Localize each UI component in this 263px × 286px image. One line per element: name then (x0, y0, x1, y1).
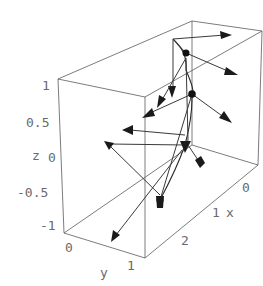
x-tick-2: 2 (181, 233, 189, 248)
x-axis-label: x (226, 205, 234, 220)
y-tick-0: 0 (65, 240, 73, 255)
z-tick-neg1: -1 (40, 218, 56, 233)
z-tick-0.5: 0.5 (26, 115, 49, 130)
3d-plot: 1 0.5 0 -0.5 -1 z 0 1 2 x 0 1 y (0, 0, 263, 286)
x-axis-ticks: 0 1 2 (181, 180, 250, 248)
y-tick-1: 1 (127, 258, 135, 273)
z-tick-0: 0 (48, 150, 56, 165)
z-tick-1: 1 (42, 78, 50, 93)
point-marker (188, 90, 196, 98)
z-tick-neg0.5: -0.5 (17, 185, 48, 200)
z-axis-label: z (32, 148, 40, 163)
x-tick-0: 0 (242, 180, 250, 195)
x-tick-1: 1 (212, 205, 220, 220)
curve-points (156, 50, 196, 209)
point-marker (183, 50, 190, 57)
bounding-box (58, 21, 262, 258)
y-axis-label: y (100, 265, 108, 280)
